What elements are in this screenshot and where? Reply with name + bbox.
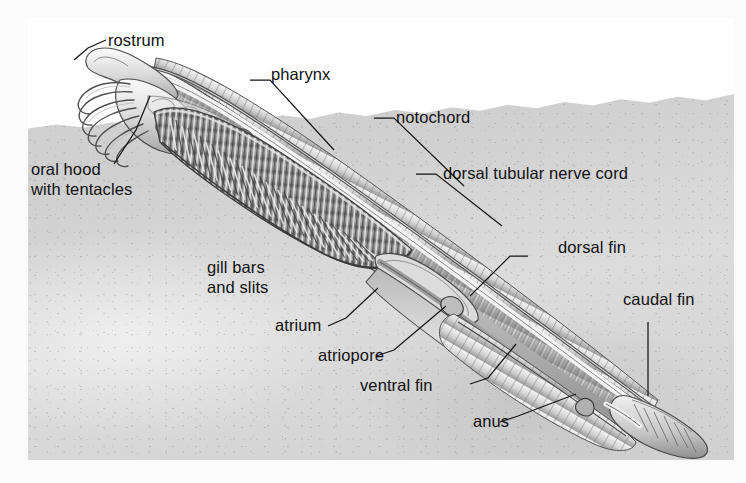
label-caudal-fin: caudal fin bbox=[623, 290, 695, 309]
label-oral-hood-line2: with tentacles bbox=[31, 180, 132, 199]
leader-anus bbox=[500, 394, 576, 422]
label-gill-bars-line1: gill bars bbox=[207, 258, 265, 277]
label-dorsal-fin: dorsal fin bbox=[558, 238, 626, 257]
label-notochord: notochord bbox=[396, 108, 470, 127]
label-pharynx: pharynx bbox=[271, 65, 330, 84]
label-anus: anus bbox=[473, 412, 509, 431]
label-gill-bars-line2: and slits bbox=[207, 278, 268, 297]
leader-ventral-fin bbox=[470, 344, 516, 384]
label-oral-hood-line1: oral hood bbox=[31, 160, 101, 179]
label-dorsal-nerve-cord: dorsal tubular nerve cord bbox=[443, 164, 628, 183]
leader-dorsal-fin bbox=[470, 256, 528, 296]
label-ventral-fin: ventral fin bbox=[360, 376, 433, 395]
leader-pharynx bbox=[250, 80, 334, 150]
leader-atriopore bbox=[376, 306, 446, 356]
label-atrium: atrium bbox=[275, 316, 321, 335]
label-rostrum: rostrum bbox=[108, 31, 165, 50]
figure-canvas: rostrum pharynx notochord dorsal tubular… bbox=[0, 0, 746, 483]
leader-atrium bbox=[328, 288, 378, 326]
leader-rostrum bbox=[74, 40, 106, 60]
leader-oral-hood bbox=[114, 96, 150, 164]
label-atriopore: atriopore bbox=[318, 346, 384, 365]
